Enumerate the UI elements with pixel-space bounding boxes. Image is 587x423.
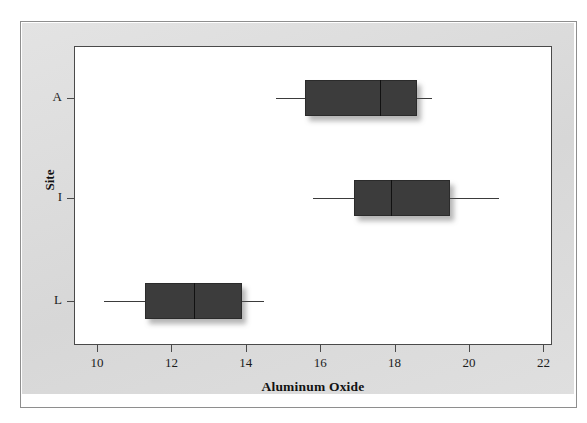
y-tick-A <box>67 98 74 99</box>
whisker-high-I <box>450 198 498 199</box>
whisker-high-A <box>417 98 432 99</box>
x-tick-label-12: 12 <box>151 355 191 371</box>
x-tick-label-20: 20 <box>449 355 489 371</box>
x-tick-22 <box>543 345 544 352</box>
y-tick-I <box>67 198 74 199</box>
box-iqr-I <box>354 180 451 216</box>
median-L <box>194 283 195 319</box>
whisker-low-A <box>276 98 306 99</box>
y-tick-L <box>67 301 74 302</box>
y-tick-label-L: L <box>38 292 62 308</box>
median-I <box>391 180 392 216</box>
y-tick-label-A: A <box>38 89 62 105</box>
median-A <box>380 80 381 116</box>
figure-container: Aluminum Oxide Site 10121416182022 AIL <box>0 0 587 423</box>
x-tick-18 <box>395 345 396 352</box>
x-tick-label-14: 14 <box>226 355 266 371</box>
x-tick-label-10: 10 <box>77 355 117 371</box>
x-axis-label: Aluminum Oxide <box>74 379 552 395</box>
x-tick-label-22: 22 <box>523 355 563 371</box>
plot-overlay: Aluminum Oxide Site 10121416182022 AIL <box>0 0 587 423</box>
x-tick-14 <box>246 345 247 352</box>
x-tick-label-18: 18 <box>375 355 415 371</box>
y-tick-label-I: I <box>38 189 62 205</box>
whisker-low-I <box>313 198 354 199</box>
x-tick-16 <box>320 345 321 352</box>
whisker-low-L <box>104 301 145 302</box>
x-tick-12 <box>171 345 172 352</box>
box-iqr-A <box>305 80 417 116</box>
x-tick-label-16: 16 <box>300 355 340 371</box>
whisker-high-L <box>242 301 264 302</box>
x-tick-20 <box>469 345 470 352</box>
x-tick-10 <box>97 345 98 352</box>
